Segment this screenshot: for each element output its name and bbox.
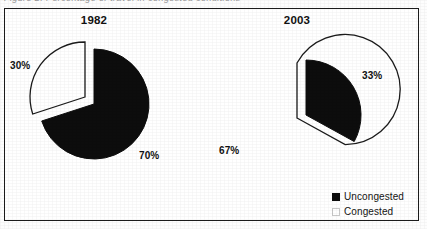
chart-title-1982: 1982 bbox=[62, 14, 126, 26]
legend-label-congested: Congested bbox=[344, 206, 393, 217]
data-label-2003-congested: 67% bbox=[219, 145, 239, 156]
legend-item-congested: Congested bbox=[332, 204, 418, 219]
legend-swatch-congested-icon bbox=[332, 208, 340, 216]
chart-legend: Uncongested Congested bbox=[332, 189, 418, 219]
data-label-1982-uncongested: 70% bbox=[139, 150, 159, 161]
figure-container: Figure 2. Percentage of travel in conges… bbox=[0, 0, 427, 229]
legend-label-uncongested: Uncongested bbox=[344, 191, 404, 202]
cropped-caption: Figure 2. Percentage of travel in conges… bbox=[0, 0, 427, 7]
cropped-caption-text: Figure 2. Percentage of travel in conges… bbox=[0, 0, 241, 3]
chart-title-2003: 2003 bbox=[265, 14, 329, 26]
legend-swatch-uncongested-icon bbox=[332, 193, 340, 201]
legend-item-uncongested: Uncongested bbox=[332, 189, 418, 204]
data-label-1982-congested: 30% bbox=[10, 60, 30, 71]
data-label-2003-uncongested: 33% bbox=[362, 70, 382, 81]
